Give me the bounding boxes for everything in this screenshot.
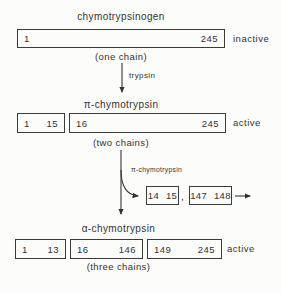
stage1-chain-note: (one chain) [17, 51, 225, 62]
peptide-separator: , [181, 191, 184, 202]
residue-end: 15 [166, 190, 177, 201]
peptide-branch-arrow [121, 170, 138, 196]
residue-end: 245 [198, 244, 215, 255]
residue-start: 147 [190, 190, 207, 201]
stage2-chain-box-1: 1 15 [17, 113, 65, 133]
released-peptide-box-2: 147 148 [189, 186, 232, 205]
residue-end: 245 [201, 33, 218, 44]
residue-end: 13 [47, 244, 59, 255]
residue-start: 14 [148, 190, 159, 201]
residue-end: 146 [119, 244, 136, 255]
stage1-title: chymotrypsinogen [17, 11, 225, 22]
pi-chymotrypsin-label: π-chymotrypsin [131, 166, 182, 173]
stage1-state-label: inactive [233, 33, 269, 44]
stage3-title: α-chymotrypsin [15, 223, 222, 234]
trypsin-label: trypsin [129, 71, 155, 80]
residue-start: 16 [76, 118, 88, 129]
residue-start: 16 [77, 244, 89, 255]
residue-start: 1 [24, 118, 30, 129]
stage2-state-label: active [233, 117, 261, 128]
residue-end: 148 [214, 190, 231, 201]
stage2-chain-note: (two chains) [17, 137, 225, 148]
stage3-chain-box-2: 16 146 [70, 239, 143, 259]
stage2-chain-box-2: 16 245 [69, 113, 226, 133]
residue-start: 149 [154, 244, 171, 255]
stage3-chain-box-3: 149 245 [147, 239, 222, 259]
residue-start: 1 [24, 33, 30, 44]
residue-end: 15 [46, 118, 58, 129]
stage2-title: π-chymotrypsin [17, 99, 225, 110]
chymotrypsin-activation-diagram: chymotrypsinogen 1 245 inactive (one cha… [0, 0, 281, 293]
released-peptide-box-1: 14 15 [146, 186, 179, 205]
stage3-state-label: active [227, 243, 255, 254]
residue-start: 1 [22, 244, 28, 255]
stage3-chain-box-1: 1 13 [15, 239, 66, 259]
residue-end: 245 [202, 118, 219, 129]
stage3-chain-note: (three chains) [15, 261, 222, 272]
stage1-chain-box: 1 245 [17, 29, 225, 48]
